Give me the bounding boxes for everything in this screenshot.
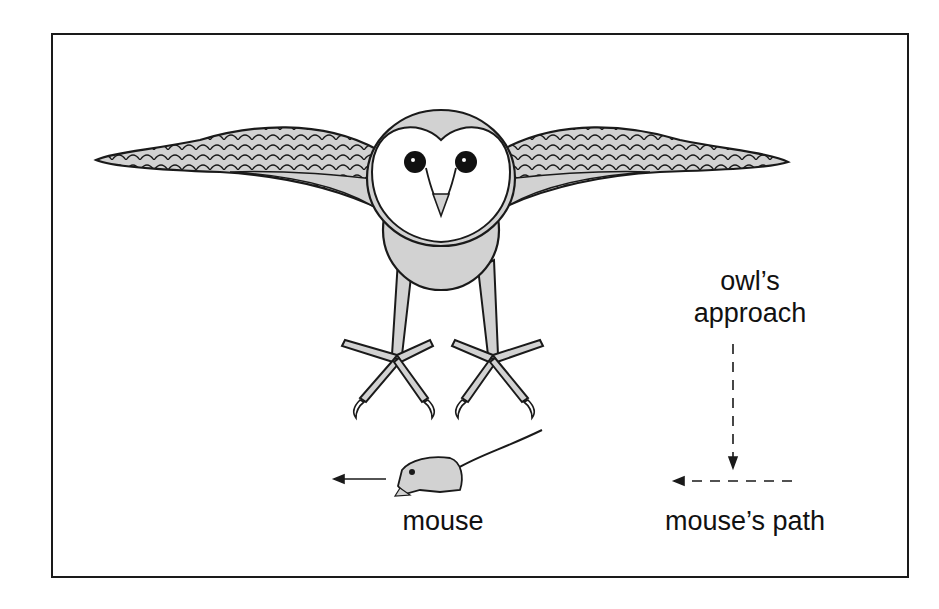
mouse-path-arrow [674, 477, 792, 485]
owl-approach-arrow [729, 344, 737, 468]
talons [354, 400, 535, 418]
left-eye [404, 151, 426, 173]
right-eye [455, 151, 477, 173]
mouse-direction-arrow [334, 475, 386, 483]
owl-approach-label: owl’s approach [690, 265, 810, 329]
mouse-figure [395, 430, 542, 496]
mouse-label: mouse [383, 505, 503, 537]
left-wing [96, 127, 382, 212]
owl-head [367, 110, 515, 246]
mouse-path-label: mouse’s path [640, 505, 850, 537]
right-wing [498, 127, 788, 212]
owl-approach-label-line2: approach [690, 297, 810, 329]
owl-approach-label-line1: owl’s [690, 265, 810, 297]
